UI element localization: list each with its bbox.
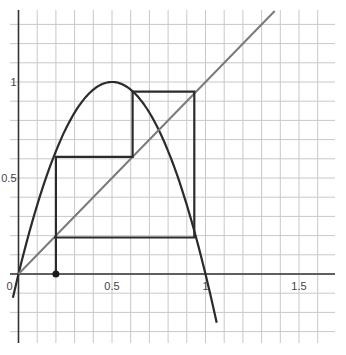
grid-lines — [10, 10, 335, 343]
cobweb-plot: 00.511.50.51 — [0, 0, 346, 355]
tick-labels: 00.511.50.51 — [1, 76, 306, 292]
x-tick-label: 1.5 — [291, 280, 306, 292]
data-series — [13, 11, 275, 323]
x-tick-label: 0 — [7, 280, 13, 292]
x-tick-label: 0.5 — [104, 280, 119, 292]
start-point — [52, 271, 59, 278]
y-tick-label: 1 — [10, 76, 16, 88]
y-tick-label: 0.5 — [1, 172, 16, 184]
